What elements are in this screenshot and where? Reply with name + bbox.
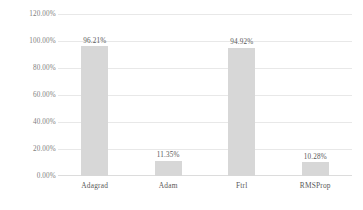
bar-rmsprop[interactable] bbox=[302, 162, 329, 176]
bar-value-label-rmsprop: 10.28% bbox=[280, 153, 350, 161]
y-tick-label-100: 100.00% bbox=[2, 37, 56, 45]
y-axis: 120.00% 100.00% 80.00% 60.00% 40.00% 20.… bbox=[0, 14, 56, 176]
bar-value-label-ftrl: 94.92% bbox=[207, 38, 277, 46]
y-tick-label-120: 120.00% bbox=[2, 10, 56, 18]
bar-slot-ftrl: 94.92% bbox=[205, 14, 279, 176]
bar-series: 96.21% 11.35% 94.92% 10.28% bbox=[58, 14, 352, 176]
y-tick-label-40: 40.00% bbox=[2, 118, 56, 126]
bar-chart: 120.00% 100.00% 80.00% 60.00% 40.00% 20.… bbox=[0, 0, 363, 210]
bar-adam[interactable] bbox=[155, 161, 182, 176]
bar-slot-rmsprop: 10.28% bbox=[279, 14, 353, 176]
y-tick-label-60: 60.00% bbox=[2, 91, 56, 99]
bar-slot-adagrad: 96.21% bbox=[58, 14, 132, 176]
x-axis: Adagrad Adam Ftrl RMSProp bbox=[58, 181, 352, 197]
bar-slot-adam: 11.35% bbox=[132, 14, 206, 176]
bar-value-label-adam: 11.35% bbox=[133, 151, 203, 159]
y-tick-label-80: 80.00% bbox=[2, 64, 56, 72]
y-tick-label-0: 0.00% bbox=[2, 172, 56, 180]
bar-value-label-adagrad: 96.21% bbox=[60, 37, 130, 45]
bar-ftrl[interactable] bbox=[228, 48, 255, 176]
y-tick-label-20: 20.00% bbox=[2, 145, 56, 153]
x-tick-label-rmsprop: RMSProp bbox=[270, 181, 360, 190]
bar-adagrad[interactable] bbox=[81, 46, 108, 176]
